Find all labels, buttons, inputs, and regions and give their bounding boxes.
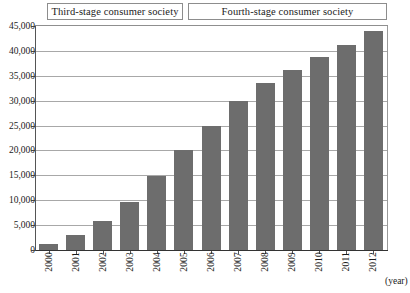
plot-right-border <box>387 26 388 250</box>
x-axis-unit-label: (year) <box>385 276 408 286</box>
x-axis-tick-label: 2005 <box>179 252 189 272</box>
bar <box>337 45 356 250</box>
x-axis-tick-label: 2001 <box>71 252 81 272</box>
x-axis-tick-label: 2010 <box>314 252 324 272</box>
x-axis-labels: 2000200120022003200420052006200720082009… <box>35 251 387 293</box>
bar <box>202 126 221 250</box>
x-axis-tick-label: 2009 <box>287 252 297 272</box>
bar-series <box>35 26 387 250</box>
bar <box>310 57 329 250</box>
bar <box>66 235 85 250</box>
bar <box>364 31 383 250</box>
x-axis-tick-label: 2004 <box>152 252 162 272</box>
y-axis: 45,00040,00035,00030,00025,00020,00015,0… <box>0 0 35 293</box>
x-axis-tick-label: 2007 <box>233 252 243 272</box>
bar <box>147 176 166 250</box>
bar <box>39 244 58 250</box>
x-axis-tick-label: 2002 <box>98 252 108 272</box>
bar <box>93 221 112 250</box>
stage-annotation-row: Third-stage consumer society Fourth-stag… <box>0 0 410 21</box>
x-axis-tick-label: 2003 <box>125 252 135 272</box>
stage-label-fourth: Fourth-stage consumer society <box>188 3 387 20</box>
bar <box>229 101 248 250</box>
bar <box>120 202 139 250</box>
chart-figure: Third-stage consumer society Fourth-stag… <box>0 0 410 293</box>
x-axis-tick-label: 2008 <box>260 252 270 272</box>
x-axis-tick-label: 2006 <box>206 252 216 272</box>
bar <box>174 150 193 250</box>
x-axis-tick-label: 2012 <box>368 252 378 272</box>
x-axis-tick-label: 2011 <box>341 252 351 271</box>
bar <box>283 70 302 250</box>
bar <box>256 83 275 250</box>
stage-label-third: Third-stage consumer society <box>47 3 183 20</box>
x-axis-tick-label: 2000 <box>44 252 54 272</box>
